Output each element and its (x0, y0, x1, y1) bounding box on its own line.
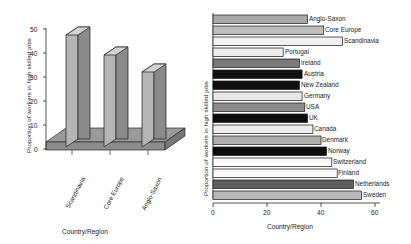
left-chart-ytick-50: 50 (30, 26, 37, 33)
bar-usa (213, 103, 305, 111)
right-chart-x-axis-title: Country/Region (267, 223, 313, 230)
bar-core-europe (213, 26, 324, 34)
bar-label-norway: Norway (328, 148, 350, 154)
bar-austria (213, 70, 302, 78)
bar-label-netherlands: Netherlands (355, 181, 389, 187)
bar-label-anglo-saxon: Anglo-Saxon (309, 16, 346, 22)
bar-norway (213, 147, 326, 155)
bar-switzerland (213, 158, 332, 166)
bar-netherlands (213, 180, 353, 188)
figure-root: Proportion of workers in high skilled jo… (0, 0, 411, 244)
bar-label-scandinavia: Scandinavia (344, 38, 379, 44)
right-chart-xtick-20: 20 (263, 209, 270, 216)
left-chart-ytick-0: 0 (34, 146, 38, 153)
bar-label-portugal: Portugal (285, 49, 309, 55)
bar-label-usa: USA (306, 104, 319, 110)
bar-canada (213, 125, 313, 133)
bar-label-finland: Finland (338, 170, 359, 176)
right-chart-xtick-40: 40 (317, 209, 324, 216)
bar-label-switzerland: Switzerland (333, 159, 366, 165)
left-chart-ytick-40: 40 (30, 50, 37, 57)
bar-label-canada: Canada (314, 126, 336, 132)
bar-finland (213, 169, 337, 177)
bar-germany (213, 92, 302, 100)
bar-portugal (213, 48, 283, 56)
bar-ireland (213, 59, 299, 67)
bar-label-sweden: Sweden (363, 192, 386, 198)
bar-sweden (213, 191, 362, 199)
bar-label-germany: Germany (304, 93, 330, 99)
bar-anglo-saxon (213, 15, 308, 23)
bar-scandinavia (213, 37, 343, 45)
left-chart-ytick-10: 10 (30, 122, 37, 129)
bar-label-uk: UK (309, 115, 318, 121)
bar-label-core-europe: Core Europe (325, 27, 361, 33)
bar-label-new-zealand: New Zealand (301, 82, 339, 88)
left-chart-x-axis-title: Country/Region (62, 228, 108, 235)
bar-denmark (213, 136, 321, 144)
bar-label-ireland: Ireland (301, 60, 321, 66)
bar-label-denmark: Denmark (322, 137, 348, 143)
bar-label-austria: Austria (304, 71, 324, 77)
left-3d-bar-chart: Proportion of workers in high skilled jo… (0, 0, 200, 244)
right-chart-xtick-60: 60 (371, 209, 378, 216)
left-chart-ytick-20: 20 (30, 98, 37, 105)
right-chart-xtick-0: 0 (211, 209, 215, 216)
right-horizontal-bar-chart: Proportion of workers in high skilled jo… (195, 0, 411, 244)
bar-new-zealand (213, 81, 299, 89)
bar-uk (213, 114, 308, 122)
left-chart-ytick-30: 30 (30, 74, 37, 81)
